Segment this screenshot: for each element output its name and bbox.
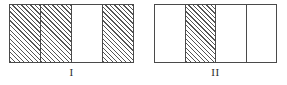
figure-ii-cell-1 — [155, 5, 186, 62]
figure-i-bar — [9, 4, 134, 63]
figure-ii — [154, 4, 277, 63]
figure-i-cell-2 — [41, 5, 72, 62]
figure-i-cell-3 — [72, 5, 103, 62]
figure-ii-cell-3 — [216, 5, 247, 62]
figure-ii-bar — [154, 4, 277, 63]
figure-i-cell-4 — [103, 5, 133, 62]
figure-ii-label: II — [154, 66, 277, 78]
figure-i-label: I — [9, 66, 134, 78]
figure-ii-cell-2 — [186, 5, 217, 62]
figure-ii-cell-4 — [247, 5, 277, 62]
fraction-bars-diagram: I II — [0, 0, 287, 85]
figure-i — [9, 4, 134, 63]
figure-i-cell-1 — [10, 5, 41, 62]
